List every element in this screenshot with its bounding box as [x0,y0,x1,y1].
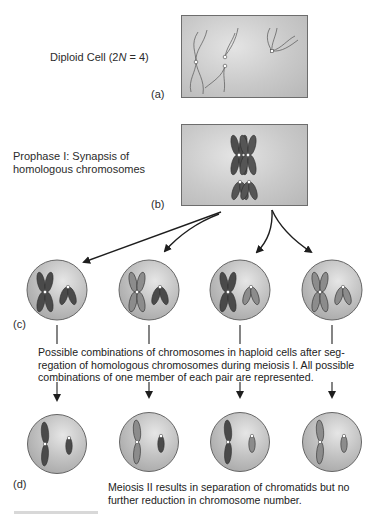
centromere-icon [226,290,229,293]
centromere-icon [318,440,321,443]
centromere-icon [194,50,273,68]
cell [119,260,179,320]
cell [303,413,362,472]
cell [27,260,87,320]
chromosome-icon [158,436,164,453]
centromere-icon [159,434,162,437]
arrow-icon [84,210,311,262]
chromosome-icon [66,438,72,455]
cell [211,413,270,472]
meiosis-diagram [0,0,377,514]
synapsed-large-tetrad [229,134,257,175]
centromere-icon [341,285,344,288]
chromosome-icon [249,436,255,453]
chromatin-threads [190,28,298,94]
cell [302,260,362,320]
centromere-icon [226,440,229,443]
centromere-icon [249,285,252,288]
haploid-cells-meiosis-one [27,260,362,320]
synapsed-small-tetrad [230,181,259,200]
centromere-icon [67,436,70,439]
cells-after-meiosis-two [28,413,362,474]
arrow-icon [57,325,332,400]
centromere-icon [342,434,345,437]
centromere-icon [158,285,161,288]
chromosome-icon [341,436,347,453]
cell [120,413,179,472]
centromere-icon [43,442,46,445]
cell [28,415,87,474]
centromere-icon [135,440,138,443]
centromere-icon [318,290,321,293]
centromere-icon [135,290,138,293]
centromere-icon [66,285,69,288]
cell [210,260,270,320]
centromere-icon [43,290,46,293]
centromere-icon [250,434,253,437]
